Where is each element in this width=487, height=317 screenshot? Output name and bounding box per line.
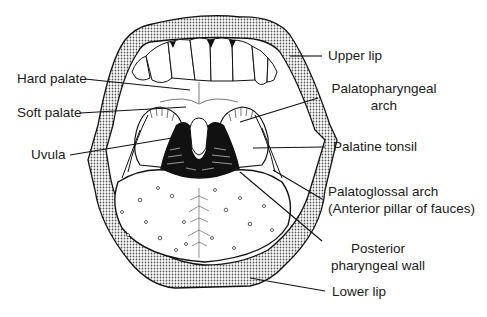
label-palatopharyngeal-arch-line2: arch	[322, 97, 446, 114]
label-palatine-tonsil: Palatine tonsil	[333, 138, 417, 155]
mouth-anatomy-diagram: Hard palate Soft palate Uvula Upper lip …	[0, 0, 487, 317]
label-upper-lip: Upper lip	[328, 47, 382, 64]
label-palatoglossal-arch-line2: (Anterior pillar of fauces)	[328, 200, 475, 217]
label-palatoglossal-arch-line1: Palatoglossal arch	[328, 183, 475, 200]
label-lower-lip: Lower lip	[332, 283, 386, 300]
label-uvula: Uvula	[31, 146, 66, 163]
label-posterior-pharyngeal-wall: Posterior pharyngeal wall	[323, 240, 433, 274]
label-palatopharyngeal-arch-line1: Palatopharyngeal	[322, 80, 446, 97]
label-soft-palate: Soft palate	[17, 104, 82, 121]
label-posterior-pharyngeal-wall-line1: Posterior	[323, 240, 433, 257]
label-palatopharyngeal-arch: Palatopharyngeal arch	[322, 80, 446, 114]
label-posterior-pharyngeal-wall-line2: pharyngeal wall	[323, 257, 433, 274]
label-palatoglossal-arch: Palatoglossal arch (Anterior pillar of f…	[328, 183, 475, 217]
label-hard-palate: Hard palate	[17, 70, 87, 87]
